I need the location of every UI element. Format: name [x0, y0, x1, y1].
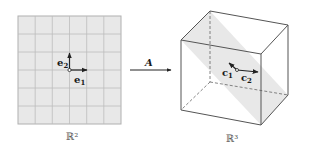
- linear-map-diagram: e1 e2 ℝ² A c1 c2 ℝ³: [0, 0, 310, 151]
- origin-point: [68, 68, 71, 71]
- map-label: A: [144, 57, 153, 68]
- r2-label: ℝ²: [66, 131, 78, 142]
- cube-origin-point: [236, 69, 239, 72]
- r3-label: ℝ³: [226, 133, 238, 144]
